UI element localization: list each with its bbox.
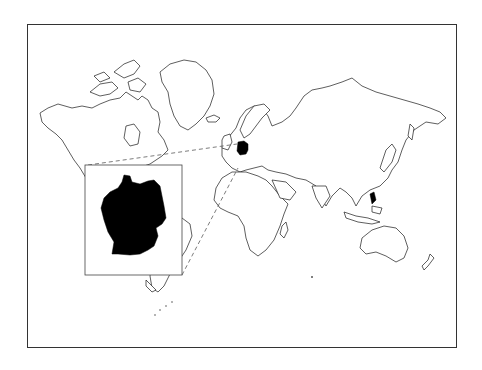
arctic-archipelago bbox=[90, 60, 146, 96]
world-map bbox=[0, 0, 482, 370]
madagascar bbox=[280, 222, 288, 238]
iceland bbox=[206, 115, 220, 122]
australia bbox=[360, 226, 408, 262]
antarctic-fragments bbox=[154, 276, 313, 316]
greenland bbox=[160, 60, 214, 130]
germany-highlight bbox=[237, 141, 248, 155]
indonesia bbox=[344, 206, 382, 224]
philippines bbox=[370, 192, 376, 204]
india bbox=[312, 186, 330, 208]
new-zealand bbox=[422, 254, 434, 270]
